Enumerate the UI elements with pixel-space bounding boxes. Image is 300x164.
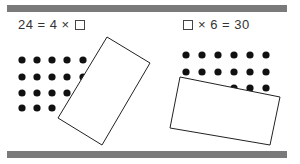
bottom-divider-bar — [7, 151, 287, 158]
cover-card-left — [58, 37, 150, 145]
dot-array-scene — [0, 0, 300, 164]
